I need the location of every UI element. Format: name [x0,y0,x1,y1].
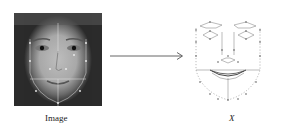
face-photo [14,13,102,106]
landmark-mesh [188,10,278,105]
x-label: X [229,113,235,123]
image-label: Image [45,113,68,123]
arrow-right-icon [109,51,185,61]
